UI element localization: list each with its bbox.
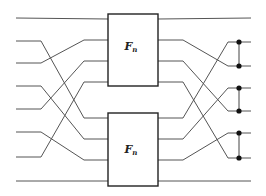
label-main: F — [125, 143, 133, 156]
output-wire-4 — [158, 42, 251, 118]
butterfly-diagram — [0, 0, 266, 196]
label-subscript: n — [132, 148, 137, 157]
input-wire-1 — [16, 41, 108, 118]
output-wire-0 — [158, 18, 251, 19]
junction-dot — [236, 108, 241, 113]
output-wire-6 — [158, 133, 251, 160]
input-permutation-wires — [16, 18, 108, 181]
junction-dot — [236, 39, 241, 44]
junction-dot — [236, 63, 241, 68]
block-label-bottom: Fn — [125, 143, 138, 157]
junction-dot — [236, 155, 241, 160]
input-wire-0 — [16, 18, 108, 19]
butterfly-dot-connectors — [236, 39, 241, 160]
output-wire-1 — [158, 40, 251, 66]
input-wire-4 — [16, 61, 108, 109]
label-subscript: n — [132, 45, 137, 54]
input-wire-2 — [16, 40, 108, 63]
block-label-top: Fn — [125, 40, 138, 54]
input-wire-5 — [16, 132, 108, 160]
label-main: F — [125, 40, 133, 53]
junction-dot — [236, 130, 241, 135]
output-wire-2 — [158, 61, 251, 111]
input-wire-3 — [16, 86, 108, 139]
junction-dot — [236, 85, 241, 90]
